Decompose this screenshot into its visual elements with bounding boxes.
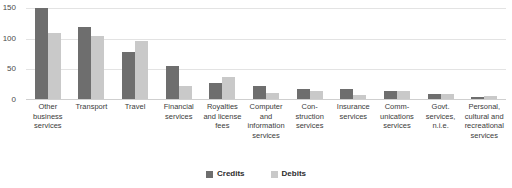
bar-debits[interactable] bbox=[310, 91, 323, 99]
bar-group bbox=[462, 7, 506, 99]
bar-debits[interactable] bbox=[353, 95, 366, 99]
bar-debits[interactable] bbox=[48, 33, 61, 99]
bar-debits[interactable] bbox=[397, 91, 410, 99]
x-axis-category-labels: Other business servicesTransportTravelFi… bbox=[26, 102, 506, 140]
bar-group bbox=[201, 7, 245, 99]
bar-debits[interactable] bbox=[441, 94, 454, 99]
bar-group bbox=[331, 7, 375, 99]
bar-group bbox=[419, 7, 463, 99]
x-axis-label: Personal, cultural and recreational serv… bbox=[462, 102, 506, 140]
bar-group bbox=[244, 7, 288, 99]
y-tick-label-100: 100 bbox=[0, 35, 16, 43]
bar-debits[interactable] bbox=[266, 93, 279, 99]
x-axis-label: Insurance services bbox=[331, 102, 375, 140]
legend-swatch-credits-icon bbox=[206, 171, 213, 178]
legend-label-debits: Debits bbox=[282, 170, 306, 178]
legend-swatch-debits-icon bbox=[271, 171, 278, 178]
x-axis-label: Con-struction services bbox=[288, 102, 332, 140]
bar-chart: 150 100 50 0 Other business servicesTran… bbox=[0, 0, 512, 188]
bar-debits[interactable] bbox=[222, 77, 235, 99]
bar-debits[interactable] bbox=[91, 36, 104, 99]
bar-credits[interactable] bbox=[253, 86, 266, 99]
bar-groups bbox=[26, 7, 506, 99]
legend-item-debits[interactable]: Debits bbox=[271, 170, 306, 178]
x-axis-label: Other business services bbox=[26, 102, 70, 140]
bar-credits[interactable] bbox=[297, 89, 310, 99]
legend-label-credits: Credits bbox=[217, 170, 245, 178]
bar-debits[interactable] bbox=[135, 41, 148, 99]
y-tick-label-0: 0 bbox=[0, 96, 16, 104]
chart-legend: Credits Debits bbox=[0, 170, 512, 178]
x-axis-label: Financial services bbox=[157, 102, 201, 140]
y-tick-label-150: 150 bbox=[0, 4, 16, 12]
bar-credits[interactable] bbox=[122, 52, 135, 99]
plot-area bbox=[26, 8, 506, 100]
y-tick-label-50: 50 bbox=[0, 65, 16, 73]
bar-debits[interactable] bbox=[179, 86, 192, 99]
x-axis-label: Comm-unications services bbox=[375, 102, 419, 140]
bar-group bbox=[70, 7, 114, 99]
legend-item-credits[interactable]: Credits bbox=[206, 170, 245, 178]
x-axis-label: Computer and information services bbox=[244, 102, 288, 140]
bar-group bbox=[157, 7, 201, 99]
bar-credits[interactable] bbox=[471, 97, 484, 99]
x-axis-label: Govt. services, n.i.e. bbox=[419, 102, 463, 140]
x-axis-label: Royalties and license fees bbox=[201, 102, 245, 140]
x-axis-label: Transport bbox=[70, 102, 114, 140]
bar-credits[interactable] bbox=[35, 8, 48, 99]
bar-credits[interactable] bbox=[340, 89, 353, 99]
bar-group bbox=[375, 7, 419, 99]
bar-credits[interactable] bbox=[166, 66, 179, 99]
bar-credits[interactable] bbox=[209, 83, 222, 99]
x-axis-label: Travel bbox=[113, 102, 157, 140]
bar-credits[interactable] bbox=[78, 27, 91, 99]
bar-group bbox=[288, 7, 332, 99]
bar-debits[interactable] bbox=[484, 96, 497, 99]
bar-credits[interactable] bbox=[384, 91, 397, 99]
bar-group bbox=[113, 7, 157, 99]
bar-group bbox=[26, 7, 70, 99]
bar-credits[interactable] bbox=[428, 94, 441, 99]
